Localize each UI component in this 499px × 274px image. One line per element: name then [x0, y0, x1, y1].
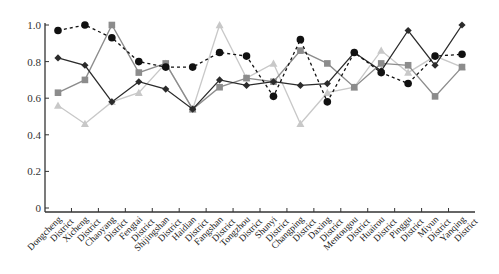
diamond-marker	[243, 82, 250, 89]
square-marker	[378, 60, 385, 67]
circle-marker	[377, 69, 385, 77]
y-tick-label: 0.6	[27, 92, 41, 104]
triangle-marker	[269, 59, 277, 66]
series-diamond	[54, 21, 465, 112]
diamond-marker	[54, 54, 61, 61]
line-chart: 00.20.40.60.81.0 DongchengDistrictXichen…	[0, 0, 499, 274]
square-marker	[324, 60, 331, 67]
y-tick-label: 0.4	[27, 129, 41, 141]
series-circle	[54, 21, 466, 105]
square-marker	[109, 22, 116, 29]
x-axis-labels: DongchengDistrictXichengDistrictChaoyang…	[25, 209, 479, 260]
triangle-marker	[54, 102, 62, 109]
y-tick-label: 0.8	[27, 56, 41, 68]
square-marker	[82, 77, 89, 84]
circle-marker	[350, 49, 358, 57]
square-marker	[243, 75, 250, 82]
y-tick-label: 0	[36, 202, 42, 214]
circle-marker	[108, 34, 116, 42]
circle-marker	[216, 49, 224, 57]
circle-marker	[243, 52, 251, 60]
circle-marker	[297, 36, 305, 44]
y-tick-label: 1.0	[27, 19, 41, 31]
square-marker	[405, 62, 412, 69]
square-marker	[351, 84, 358, 91]
square-marker	[297, 47, 304, 54]
circle-marker	[189, 63, 197, 71]
circle-marker	[54, 27, 62, 35]
circle-marker	[404, 80, 412, 88]
circle-marker	[431, 52, 439, 60]
square-marker	[216, 84, 223, 91]
y-tick-label: 0.2	[27, 165, 41, 177]
square-marker	[136, 69, 143, 76]
square-marker	[55, 89, 62, 96]
circle-marker	[458, 50, 466, 58]
diamond-marker	[458, 21, 465, 28]
square-marker	[459, 64, 466, 71]
triangle-marker	[216, 21, 224, 28]
series-layer	[54, 21, 466, 127]
triangle-marker	[377, 47, 385, 54]
diamond-marker	[297, 82, 304, 89]
square-marker	[432, 93, 439, 100]
x-category-label: YanqingDistrict	[438, 209, 480, 251]
circle-marker	[324, 98, 332, 106]
circle-marker	[81, 21, 89, 29]
circle-marker	[135, 58, 143, 66]
circle-marker	[162, 63, 170, 71]
circle-marker	[270, 93, 278, 101]
